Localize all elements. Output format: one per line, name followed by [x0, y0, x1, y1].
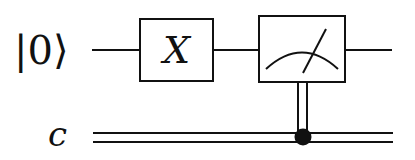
- x-gate: X: [140, 19, 213, 81]
- measurement-gate: [259, 16, 345, 82]
- classical-register-label: c: [48, 114, 67, 154]
- measurement-classical-link: [298, 82, 307, 136]
- qubit-label: |0⟩: [14, 27, 69, 73]
- quantum-circuit: |0⟩ X c: [0, 0, 415, 160]
- classical-control-dot-icon: [295, 129, 312, 146]
- classical-wire: [93, 133, 393, 142]
- x-gate-label: X: [160, 28, 192, 72]
- measurement-box: [259, 16, 345, 82]
